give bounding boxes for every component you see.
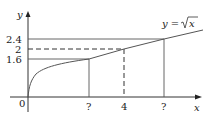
x-tick-label-4: 4 [121,101,127,112]
y-tick-label-1.6: 1.6 [6,54,22,65]
sqrt-curve [28,30,203,97]
y-axis-label: y [16,9,23,20]
origin-label: 0 [19,98,25,109]
x-axis-label: x [194,102,200,113]
function-label-arg: x [189,18,195,29]
sqrt-function-diagram: 2.4 2 1.6 y x 0 ? 4 ? y = x [0,0,211,116]
x-tick-label-q1: ? [86,101,91,112]
y-axis-arrow-icon [26,11,31,17]
function-label-lhs: y = [161,18,179,29]
x-tick-label-q2: ? [161,101,166,112]
x-axis-arrow-icon [195,95,202,100]
